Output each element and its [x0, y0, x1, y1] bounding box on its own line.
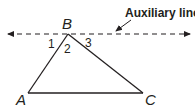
vertex-label-b: B	[62, 15, 72, 32]
vertex-label-a: A	[15, 91, 26, 108]
angle-label-1: 1	[48, 37, 55, 51]
angle-label-3: 3	[85, 36, 92, 50]
side-bc	[68, 34, 143, 93]
vertex-label-c: C	[145, 91, 156, 108]
triangle-diagram: B A C 1 2 3 Auxiliary line	[0, 0, 195, 109]
angle-label-2: 2	[64, 42, 71, 56]
label-pointer-arrow	[116, 20, 131, 31]
auxiliary-line-label: Auxiliary line	[125, 6, 195, 20]
